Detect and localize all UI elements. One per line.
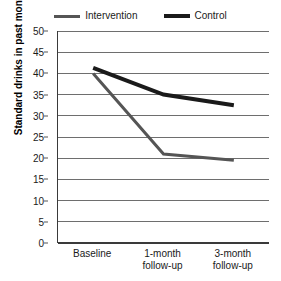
y-tick-label: 50 xyxy=(33,26,44,37)
y-tick-label: 15 xyxy=(33,174,44,185)
y-tick-label: 35 xyxy=(33,89,44,100)
y-tick-mark xyxy=(44,137,48,138)
series-line-intervention xyxy=(93,73,234,160)
y-tick-mark xyxy=(44,221,48,222)
x-tick-label: 3-monthfollow-up xyxy=(213,248,253,272)
y-tick-mark xyxy=(44,243,48,244)
legend-label-intervention: Intervention xyxy=(85,11,137,21)
plot-area xyxy=(57,31,268,243)
y-tick-mark xyxy=(44,115,48,116)
series-lines xyxy=(58,31,269,243)
y-tick-mark xyxy=(44,179,48,180)
y-tick-label: 45 xyxy=(33,47,44,58)
y-tick-label: 40 xyxy=(33,68,44,79)
y-tick-mark xyxy=(44,158,48,159)
x-tick-label: Baseline xyxy=(73,248,111,260)
y-tick-label: 25 xyxy=(33,132,44,143)
legend-entry-control: Control xyxy=(164,11,227,21)
chart-legend: Intervention Control xyxy=(0,6,281,26)
legend-entry-intervention: Intervention xyxy=(54,11,137,21)
y-tick-mark xyxy=(44,94,48,95)
y-axis-tick-labels: 05101520253035404550 xyxy=(20,31,48,243)
x-tick-label: 1-monthfollow-up xyxy=(142,248,182,272)
legend-label-control: Control xyxy=(195,11,227,21)
y-tick-label: 10 xyxy=(33,195,44,206)
legend-swatch-control-icon xyxy=(164,14,190,18)
x-axis-tick-labels: Baseline1-monthfollow-up3-monthfollow-up xyxy=(57,248,268,280)
y-tick-label: 30 xyxy=(33,110,44,121)
legend-swatch-intervention-icon xyxy=(54,15,80,18)
y-tick-mark xyxy=(44,200,48,201)
y-tick-label: 20 xyxy=(33,153,44,164)
y-tick-mark xyxy=(44,52,48,53)
y-tick-mark xyxy=(44,31,48,32)
line-chart-figure: Intervention Control Standard drinks in … xyxy=(0,0,281,281)
y-tick-mark xyxy=(44,73,48,74)
